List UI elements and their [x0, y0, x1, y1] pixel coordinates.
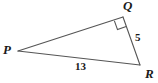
vertex-label-r: R	[145, 67, 154, 80]
side-length-label-qr: 5	[135, 32, 141, 43]
side-pq-line	[18, 17, 123, 51]
vertex-label-p: P	[3, 43, 11, 56]
vertex-label-q: Q	[123, 0, 132, 12]
geometry-figure: P Q R 5 13	[0, 0, 158, 83]
side-length-label-pr: 13	[75, 61, 86, 72]
